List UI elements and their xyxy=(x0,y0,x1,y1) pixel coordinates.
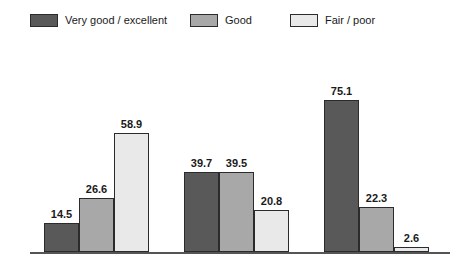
bar-value-label: 14.5 xyxy=(39,208,84,220)
bar-chart: Very good / excellentGoodFair / poor 14.… xyxy=(0,0,464,267)
bar-value-label: 2.6 xyxy=(389,232,434,244)
bar-group2-series0[interactable] xyxy=(324,100,359,252)
bar-group0-series0[interactable] xyxy=(44,223,79,252)
bar-group0-series1[interactable] xyxy=(79,198,114,252)
bar-group1-series1[interactable] xyxy=(219,172,254,252)
bar-group1-series2[interactable] xyxy=(254,210,289,252)
bar-value-label: 26.6 xyxy=(74,183,119,195)
bar-value-label: 75.1 xyxy=(319,85,364,97)
bar-value-label: 22.3 xyxy=(354,192,399,204)
plot-area: 14.526.658.939.739.520.875.122.32.6 xyxy=(0,0,464,267)
bar-group1-series0[interactable] xyxy=(184,172,219,252)
bar-group2-series2[interactable] xyxy=(394,247,429,252)
bar-group2-series1[interactable] xyxy=(359,207,394,252)
x-axis-baseline xyxy=(30,252,450,254)
bar-group0-series2[interactable] xyxy=(114,133,149,252)
bar-value-label: 39.5 xyxy=(214,157,259,169)
bar-value-label: 20.8 xyxy=(249,195,294,207)
bar-value-label: 58.9 xyxy=(109,118,154,130)
